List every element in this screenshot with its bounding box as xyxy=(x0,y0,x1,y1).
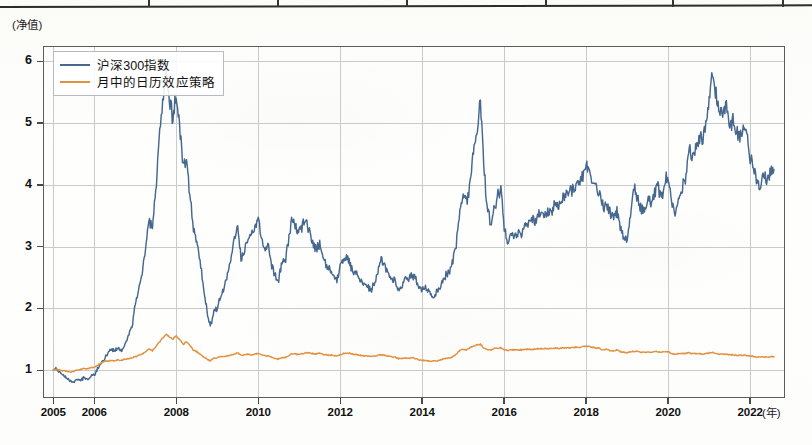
x-tick-2008 xyxy=(176,398,177,404)
y-tick-label-1: 1 xyxy=(8,362,32,376)
series-path-calendar-strategy xyxy=(53,334,774,372)
table-column-separator-2 xyxy=(406,0,408,7)
x-tick-label-2010: 2010 xyxy=(236,406,280,418)
x-tick-label-2005: 2005 xyxy=(31,406,75,418)
series-path-hs300 xyxy=(53,70,774,383)
x-tick-2005 xyxy=(53,398,54,404)
x-tick-2018 xyxy=(585,398,586,404)
y-tick-label-4: 4 xyxy=(8,177,32,191)
table-column-separator-4 xyxy=(672,0,674,7)
x-tick-label-2012: 2012 xyxy=(318,406,362,418)
x-tick-2020 xyxy=(667,398,668,404)
x-tick-label-2016: 2016 xyxy=(482,406,526,418)
table-column-separator-1 xyxy=(277,0,279,7)
legend-label-strategy: 月中的日历效应策略 xyxy=(97,72,215,91)
x-tick-label-2014: 2014 xyxy=(400,406,444,418)
legend-swatch-strategy xyxy=(60,81,90,83)
x-tick-label-2020: 2020 xyxy=(646,406,690,418)
legend-item-1: 月中的日历效应策略 xyxy=(60,73,215,90)
x-tick-2022 xyxy=(749,398,750,404)
x-tick-2016 xyxy=(503,398,504,404)
table-column-separator-3 xyxy=(545,0,547,7)
x-tick-label-2006: 2006 xyxy=(72,406,116,418)
y-axis-unit-label: (净值) xyxy=(12,16,42,32)
table-fragment-above-chart xyxy=(0,0,812,11)
x-tick-2014 xyxy=(421,398,422,404)
legend-swatch-hs300 xyxy=(60,64,90,66)
x-tick-2010 xyxy=(258,398,259,404)
legend-item-0: 沪深300指数 xyxy=(60,56,215,73)
chart-legend: 沪深300指数 月中的日历效应策略 xyxy=(53,51,224,96)
x-tick-2006 xyxy=(94,398,95,404)
y-tick-label-5: 5 xyxy=(8,115,32,129)
table-column-separator-0 xyxy=(148,0,150,7)
x-axis-unit-label: (年) xyxy=(762,404,781,420)
x-tick-label-2008: 2008 xyxy=(154,406,198,418)
y-tick-label-6: 6 xyxy=(8,53,32,67)
series-lines xyxy=(43,46,785,398)
x-tick-2012 xyxy=(340,398,341,404)
chart-page: (净值) (年) 123456 200520062008201020122014… xyxy=(0,0,812,445)
plot-area: 123456 200520062008201020122014201620182… xyxy=(43,46,785,398)
y-tick-label-2: 2 xyxy=(8,300,32,314)
x-tick-label-2018: 2018 xyxy=(564,406,608,418)
y-tick-label-3: 3 xyxy=(8,239,32,253)
table-column-separator-5 xyxy=(782,0,784,7)
